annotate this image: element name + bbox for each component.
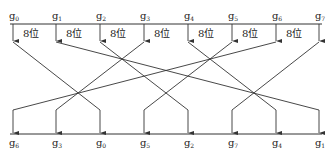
wire-crossing bbox=[232, 42, 319, 110]
bit-width-label: 8位 bbox=[242, 27, 258, 39]
bottom-label-g3: g3 bbox=[52, 137, 62, 148]
wire-crossing bbox=[13, 42, 100, 110]
top-label-g4: g4 bbox=[184, 10, 194, 22]
bottom-labels: g6g3g0g5g2g7g4g1 bbox=[9, 137, 325, 148]
top-label-g6: g6 bbox=[272, 10, 282, 22]
bottom-label-g2: g2 bbox=[184, 137, 194, 148]
bit-width-label: 8位 bbox=[110, 27, 126, 39]
top-label-g1: g1 bbox=[52, 10, 62, 22]
top-labels: g0g1g2g3g4g5g6g7 bbox=[9, 10, 325, 22]
bottom-label-g4: g4 bbox=[272, 137, 282, 148]
wire-crossing bbox=[13, 42, 276, 110]
top-label-g7: g7 bbox=[315, 10, 325, 22]
bottom-label-g1: g1 bbox=[315, 137, 325, 148]
wires bbox=[13, 24, 319, 133]
top-label-g5: g5 bbox=[228, 10, 238, 22]
wire-crossing bbox=[144, 42, 232, 110]
wire-crossing bbox=[188, 42, 276, 110]
bit-width-label: 8位 bbox=[154, 27, 170, 39]
top-label-g0: g0 bbox=[9, 10, 19, 22]
bit-width-label: 8位 bbox=[198, 27, 214, 39]
top-label-g2: g2 bbox=[96, 10, 106, 22]
bottom-label-g0: g0 bbox=[96, 137, 106, 148]
bottom-label-g6: g6 bbox=[9, 137, 19, 148]
bit-width-label: 8位 bbox=[66, 27, 82, 39]
wire-crossing bbox=[56, 42, 144, 110]
bit-width-labels: 8位8位8位8位8位8位8位 bbox=[23, 27, 302, 39]
byte-permutation-diagram: g0g1g2g3g4g5g6g7 8位8位8位8位8位8位8位 g6g3g0g5… bbox=[0, 0, 331, 148]
bottom-label-g7: g7 bbox=[228, 137, 238, 148]
top-label-g3: g3 bbox=[140, 10, 150, 22]
bottom-label-g5: g5 bbox=[140, 137, 150, 148]
bit-width-label: 8位 bbox=[23, 27, 39, 39]
bit-width-label: 8位 bbox=[286, 27, 302, 39]
